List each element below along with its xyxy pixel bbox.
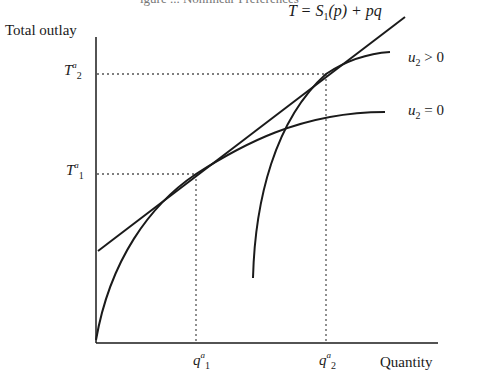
diagram-canvas — [0, 0, 478, 374]
tangent-line — [98, 17, 405, 251]
x-tick-q1: qa1 — [193, 352, 210, 369]
y-tick-T1: Ta1 — [66, 162, 84, 179]
indifference-curve-u2-zero — [96, 112, 385, 340]
tangent-label: T = S1(p) + pq — [288, 2, 382, 20]
guide-lines — [97, 74, 326, 342]
y-tick-T2: Ta2 — [64, 62, 82, 79]
x-tick-q2: qa2 — [319, 352, 336, 369]
y-axis-label: Total outlay — [5, 22, 77, 39]
figure-caption: igure ... Nonlinear Preferences — [140, 0, 299, 7]
curve-label-u2-positive: u2 > 0 — [408, 49, 444, 66]
curve-label-u2-zero: u2 = 0 — [408, 102, 444, 119]
indifference-curve-u2-positive — [253, 52, 390, 278]
x-axis-label: Quantity — [380, 354, 433, 371]
